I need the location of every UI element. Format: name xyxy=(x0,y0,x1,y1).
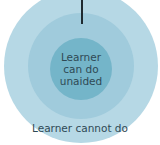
outer-ring-label: Learner cannot do xyxy=(0,122,160,134)
inner-circle-can-do-unaided: Learner can do unaided xyxy=(50,38,112,100)
pointer-line xyxy=(81,0,83,24)
inner-circle-label: Learner can do unaided xyxy=(60,51,102,87)
